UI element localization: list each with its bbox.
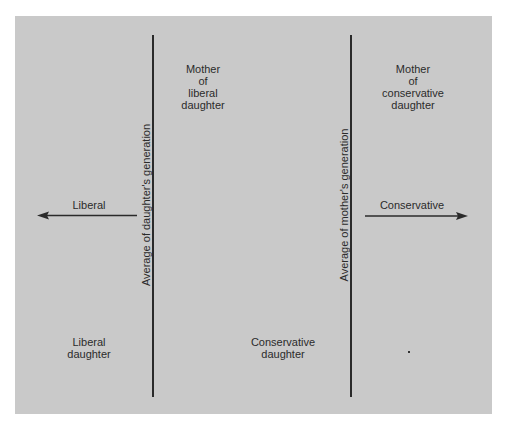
conservative-daughter-label: Conservative daughter <box>251 336 315 360</box>
mother-of-conservative-daughter-label: Mother of conservative daughter <box>382 63 444 111</box>
mother-of-liberal-daughter-label: Mother of liberal daughter <box>181 63 224 111</box>
stray-dot-mark <box>408 351 410 353</box>
liberal-direction-label: Liberal <box>72 199 105 211</box>
daughters-generation-average-line <box>152 35 154 397</box>
liberal-daughter-label: Liberal daughter <box>67 336 110 360</box>
mothers-generation-average-line <box>350 35 352 397</box>
daughters-generation-average-label: Average of daughter's generation <box>140 124 152 286</box>
mothers-generation-average-label: Average of mother's generation <box>338 129 350 282</box>
conservative-direction-label: Conservative <box>380 199 444 211</box>
